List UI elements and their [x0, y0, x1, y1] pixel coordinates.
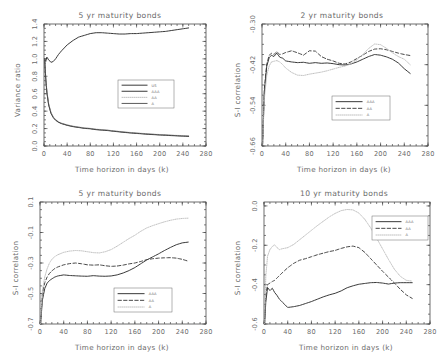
- y-axis-label: S-I correlation: [233, 63, 242, 118]
- chart-svg-1: 2 yr maturity bonds Time horizon in days…: [222, 0, 445, 178]
- panel-5yr-variance-ratio: 5 yr maturity bonds Time horizon in days…: [0, 0, 222, 178]
- svg-text:-0.6: -0.6: [251, 317, 259, 331]
- svg-text:40: 40: [63, 150, 72, 158]
- svg-text:80: 80: [83, 328, 92, 336]
- svg-text:120: 120: [105, 328, 118, 336]
- x-axis-label: Time horizon in days (k): [74, 165, 169, 174]
- svg-text:280: 280: [421, 150, 434, 158]
- svg-text:-0.5: -0.5: [27, 287, 35, 301]
- svg-text:0: 0: [260, 150, 264, 158]
- svg-text:40: 40: [283, 328, 292, 336]
- svg-text:160: 160: [130, 150, 143, 158]
- curve-a: [263, 44, 411, 144]
- chart-svg-0: 5 yr maturity bonds Time horizon in days…: [0, 0, 222, 178]
- figure-four-panel-bond-plots: 5 yr maturity bonds Time horizon in days…: [0, 0, 445, 356]
- svg-text:0.0: 0.0: [251, 200, 259, 211]
- svg-text:80: 80: [86, 150, 95, 158]
- svg-text:0.0: 0.0: [31, 140, 39, 151]
- svg-text:280: 280: [199, 150, 212, 158]
- svg-text:-0.7: -0.7: [27, 317, 35, 331]
- legend-label-aa: AA: [367, 107, 373, 111]
- legend-label-a: A: [152, 102, 155, 106]
- svg-text:0.6: 0.6: [31, 88, 39, 99]
- plot-area-0: 040801201602002402800.00.20.40.60.81.01.…: [31, 18, 213, 158]
- svg-text:-0.30: -0.30: [249, 15, 257, 33]
- svg-text:200: 200: [376, 328, 389, 336]
- legend-label-aaa: AAA: [152, 90, 160, 94]
- svg-text:120: 120: [107, 150, 120, 158]
- legend-label-a: A: [149, 305, 152, 309]
- svg-text:200: 200: [374, 150, 387, 158]
- curve-us: [45, 28, 189, 62]
- svg-text:120: 120: [329, 328, 342, 336]
- svg-text:-0.42: -0.42: [249, 56, 257, 74]
- panel-10yr-correlation: 10 yr maturity bonds Time horizon in day…: [222, 178, 445, 356]
- x-axis-label: Time horizon in days (k): [298, 343, 393, 352]
- panel-2yr-correlation: 2 yr maturity bonds Time horizon in days…: [222, 0, 445, 178]
- svg-text:280: 280: [423, 328, 436, 336]
- panel-title: 5 yr maturity bonds: [79, 189, 162, 198]
- legend-label-aaa: AAA: [367, 100, 375, 104]
- plot-area-3: 04080120160200240280-0.6-0.4-0.20.0AAAAA…: [251, 200, 437, 336]
- svg-text:40: 40: [281, 150, 290, 158]
- svg-text:0: 0: [42, 150, 46, 158]
- legend-label-a: A: [406, 233, 409, 237]
- svg-text:-0.4: -0.4: [251, 278, 259, 292]
- svg-text:-0.66: -0.66: [249, 137, 257, 155]
- svg-text:-0.54: -0.54: [249, 96, 257, 114]
- svg-text:0.4: 0.4: [31, 106, 39, 117]
- legend-label-aa: AA: [152, 96, 158, 100]
- svg-text:1.0: 1.0: [31, 53, 39, 64]
- svg-text:1.2: 1.2: [31, 36, 39, 47]
- legend-label-aaa: AAA: [406, 220, 414, 224]
- svg-text:80: 80: [305, 150, 314, 158]
- legend-label-aa: AA: [149, 299, 155, 303]
- panel-5yr-correlation: 5 yr maturity bonds Time horizon in days…: [0, 178, 222, 356]
- curve-aa: [265, 246, 413, 324]
- svg-text:0.8: 0.8: [31, 71, 39, 82]
- x-axis-label: Time horizon in days (k): [296, 165, 391, 174]
- svg-text:1.4: 1.4: [31, 18, 39, 29]
- svg-text:200: 200: [152, 328, 165, 336]
- chart-svg-3: 10 yr maturity bonds Time horizon in day…: [222, 178, 445, 356]
- plot-area-2: 04080120160200240280-0.7-0.5-0.3-0.10.1A…: [27, 196, 213, 336]
- svg-text:120: 120: [327, 150, 340, 158]
- legend-label-aaa: AAA: [149, 292, 157, 296]
- y-axis-label: Variance ratio: [13, 63, 22, 117]
- svg-text:200: 200: [153, 150, 166, 158]
- svg-text:160: 160: [352, 328, 365, 336]
- legend-label-a: A: [367, 113, 370, 117]
- svg-text:-0.1: -0.1: [27, 226, 35, 240]
- svg-text:280: 280: [199, 328, 212, 336]
- y-axis-label: S-I correlation: [11, 241, 20, 296]
- svg-text:0: 0: [262, 328, 266, 336]
- plot-area-1: 04080120160200240280-0.66-0.54-0.42-0.30…: [249, 15, 435, 158]
- panel-title: 2 yr maturity bonds: [301, 11, 384, 20]
- svg-text:-0.2: -0.2: [251, 238, 259, 252]
- svg-text:240: 240: [400, 328, 413, 336]
- svg-text:160: 160: [350, 150, 363, 158]
- chart-svg-2: 5 yr maturity bonds Time horizon in days…: [0, 178, 222, 356]
- svg-text:240: 240: [176, 328, 189, 336]
- curve-aaa: [265, 282, 413, 324]
- svg-text:-0.3: -0.3: [27, 256, 35, 270]
- legend-label-us: US: [152, 84, 158, 88]
- svg-text:0: 0: [38, 328, 42, 336]
- x-axis-label: Time horizon in days (k): [74, 343, 169, 352]
- svg-text:80: 80: [307, 328, 316, 336]
- svg-text:40: 40: [59, 328, 68, 336]
- y-axis-label: S-I correlation: [233, 241, 242, 296]
- svg-text:240: 240: [176, 150, 189, 158]
- svg-text:0.2: 0.2: [31, 123, 39, 134]
- svg-text:0.1: 0.1: [27, 196, 35, 207]
- panel-title: 10 yr maturity bonds: [300, 189, 388, 198]
- svg-text:160: 160: [128, 328, 141, 336]
- svg-text:240: 240: [398, 150, 411, 158]
- legend-label-aa: AA: [406, 227, 412, 231]
- panel-title: 5 yr maturity bonds: [79, 11, 162, 20]
